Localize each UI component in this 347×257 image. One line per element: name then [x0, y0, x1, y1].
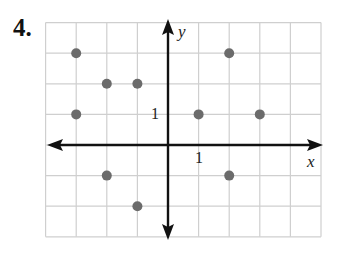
data-point — [102, 79, 112, 89]
data-point — [102, 171, 112, 181]
axes — [47, 19, 323, 240]
data-point — [71, 109, 81, 119]
x-axis-label: x — [306, 152, 315, 171]
scatter-plot: y x 1 1 — [0, 0, 347, 257]
y-axis-label: y — [176, 22, 186, 41]
data-point — [132, 79, 142, 89]
data-point — [224, 48, 234, 58]
y-tick-label-1: 1 — [151, 105, 159, 122]
grid — [46, 23, 321, 237]
x-tick-label-1: 1 — [195, 149, 203, 166]
data-point — [132, 201, 142, 211]
data-point — [71, 48, 81, 58]
data-point — [255, 109, 265, 119]
data-point — [224, 171, 234, 181]
data-point — [194, 109, 204, 119]
